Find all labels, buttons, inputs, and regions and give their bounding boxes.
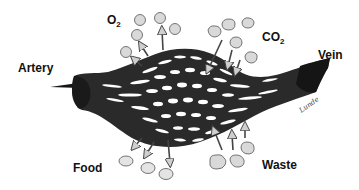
artery-label: Artery (18, 62, 53, 74)
carbon-dioxide-label-subscript: 2 (280, 37, 284, 46)
vein-label: Vein (318, 49, 343, 61)
waste-label: Waste (262, 159, 297, 171)
oxygen-label-subscript: 2 (116, 20, 120, 29)
oxygen-label: O2 (107, 14, 121, 31)
capillary-illustration (0, 0, 359, 190)
oxygen-label-main: O (107, 13, 116, 27)
vessel-body (72, 49, 330, 147)
carbon-dioxide-label: CO2 (262, 31, 284, 48)
food-molecules (119, 156, 173, 180)
capillary-diagram: Artery Vein O2 CO2 Food Waste Lunde (0, 0, 359, 190)
carbon-dioxide-label-main: CO (262, 30, 280, 44)
food-label: Food (73, 162, 102, 174)
